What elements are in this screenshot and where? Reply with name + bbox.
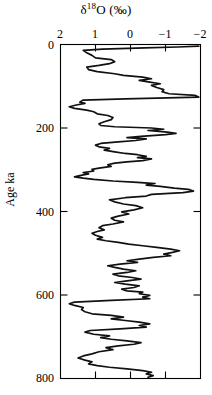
y-axis-ticks-right [194, 128, 201, 295]
figure-container: δ18O (‰) Age ka 2 1 0 −1 −2 0 200 400 60… [0, 0, 212, 395]
plot-area [0, 0, 212, 395]
delta-o18-curve [69, 46, 199, 377]
y-axis-ticks-left [61, 128, 68, 295]
x-axis-ticks-bottom [96, 372, 166, 379]
